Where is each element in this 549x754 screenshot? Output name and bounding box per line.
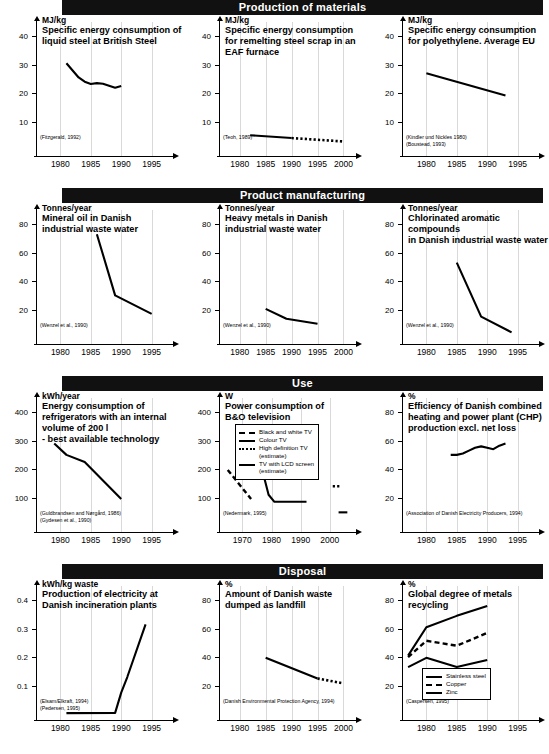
- source-citation: (Guldbrandsen and Nørgård, 1986): [40, 510, 121, 517]
- legend-label: Colour TV: [259, 436, 287, 444]
- lifecycle-section: Production of materialsMJ/kgSpecific ene…: [0, 0, 549, 188]
- chart-legend: Stainless steelCopperZinc: [422, 668, 491, 700]
- figure-page: Production of materialsMJ/kgSpecific ene…: [0, 0, 549, 754]
- section-banner: Disposal: [62, 564, 543, 579]
- chart-panel: Tonnes/yearChlorinated aromatic compound…: [366, 204, 549, 374]
- legend-label: TV with LCD screen (estimate): [259, 460, 314, 475]
- section-banner: Production of materials: [62, 0, 543, 15]
- legend-label: Zinc: [446, 688, 458, 696]
- legend-item: TV with LCD screen (estimate): [239, 460, 314, 475]
- legend-line-swatch: [239, 464, 255, 466]
- legend-line-swatch: [426, 684, 442, 686]
- charts-row: kWh/yearEnergy consumption of refrigerat…: [0, 392, 549, 562]
- series-layer: [0, 392, 183, 562]
- data-series-line: [318, 678, 344, 683]
- data-series-line: [266, 658, 318, 679]
- source-citation: (Gydesen et al., 1990): [40, 517, 91, 524]
- chart-panel: %Global degree of metals recycling204060…: [366, 580, 549, 750]
- source-citation: (Pedersen, 1995): [40, 705, 80, 712]
- legend-label: Black and white TV: [259, 428, 312, 436]
- source-citation: (Wenzel et al., 1990): [406, 322, 454, 329]
- source-citation: (Wenzel et al., 1990): [223, 322, 271, 329]
- chart-panel: MJ/kgSpecific energy consumption of liqu…: [0, 16, 183, 186]
- lifecycle-section: DisposalkWh/kg wasteProduction of electr…: [0, 564, 549, 752]
- data-series-line: [97, 234, 152, 314]
- data-series-line: [457, 263, 512, 333]
- source-citation: (Nedermark, 1995): [223, 510, 267, 517]
- charts-row: Tonnes/yearMineral oil in Danish industr…: [0, 204, 549, 374]
- section-banner: Use: [62, 376, 543, 391]
- chart-legend: Black and white TVColour TVHigh definiti…: [235, 424, 319, 480]
- data-series-line: [292, 138, 344, 141]
- chart-panel: WPower consumption of B&O television1002…: [183, 392, 366, 562]
- legend-line-swatch: [239, 440, 255, 442]
- charts-row: kWh/kg wasteProduction of electricity at…: [0, 580, 549, 750]
- series-layer: [183, 16, 366, 186]
- legend-item: Copper: [426, 680, 486, 688]
- source-citation: (Wenzel et al., 1990): [40, 322, 88, 329]
- data-series-line: [266, 309, 318, 324]
- data-series-line: [426, 73, 505, 95]
- source-citation: (Fitzgerald, 1992): [40, 134, 81, 141]
- chart-panel: MJ/kgSpecific energy consumption for pol…: [366, 16, 549, 186]
- legend-line-swatch: [239, 448, 255, 450]
- charts-row: MJ/kgSpecific energy consumption of liqu…: [0, 16, 549, 186]
- series-layer: [366, 392, 549, 562]
- legend-item: Zinc: [426, 688, 486, 696]
- series-layer: [183, 580, 366, 750]
- legend-label: High definition TV (estimate): [259, 444, 308, 459]
- legend-item: Stainless steel: [426, 672, 486, 680]
- chart-panel: %Efficiency of Danish combined heating a…: [366, 392, 549, 562]
- source-citation: (Danish Environmental Protection Agency,…: [223, 698, 335, 705]
- series-layer: [0, 580, 183, 750]
- data-series-line: [451, 444, 506, 455]
- chart-panel: MJ/kgSpecific energy consumption for rem…: [183, 16, 366, 186]
- lifecycle-section: Product manufacturingTonnes/yearMineral …: [0, 188, 549, 376]
- lifecycle-section: UsekWh/yearEnergy consumption of refrige…: [0, 376, 549, 564]
- legend-line-swatch: [426, 692, 442, 694]
- series-layer: [366, 16, 549, 186]
- legend-label: Stainless steel: [446, 672, 486, 680]
- legend-item: High definition TV (estimate): [239, 444, 314, 459]
- chart-panel: %Amount of Danish waste dumped as landfi…: [183, 580, 366, 750]
- chart-panel: kWh/yearEnergy consumption of refrigerat…: [0, 392, 183, 562]
- chart-panel: kWh/kg wasteProduction of electricity at…: [0, 580, 183, 750]
- legend-line-swatch: [239, 432, 255, 434]
- source-citation: (Association of Danish Electricity Produ…: [406, 510, 522, 517]
- data-series-line: [66, 63, 121, 87]
- legend-item: Black and white TV: [239, 428, 314, 436]
- data-series-line: [408, 658, 487, 667]
- data-series-line: [54, 444, 121, 499]
- series-layer: [0, 16, 183, 186]
- series-layer: [366, 580, 549, 750]
- chart-panel: Tonnes/yearMineral oil in Danish industr…: [0, 204, 183, 374]
- chart-panel: Tonnes/yearHeavy metals in Danish indust…: [183, 204, 366, 374]
- series-layer: [183, 204, 366, 374]
- source-citation: (Teoh, 1989): [223, 134, 252, 141]
- data-series-line: [250, 135, 291, 138]
- section-banner: Product manufacturing: [62, 188, 543, 203]
- data-series-line: [408, 606, 487, 656]
- source-citation: (Elsam/Elkraft, 1994): [40, 698, 88, 705]
- series-layer: [366, 204, 549, 374]
- source-citation: (Boustead, 1993): [406, 141, 446, 148]
- legend-item: Colour TV: [239, 436, 314, 444]
- series-layer: [0, 204, 183, 374]
- legend-line-swatch: [426, 676, 442, 678]
- legend-label: Copper: [446, 680, 466, 688]
- source-citation: (Kindler und Nickles 1980): [406, 134, 467, 141]
